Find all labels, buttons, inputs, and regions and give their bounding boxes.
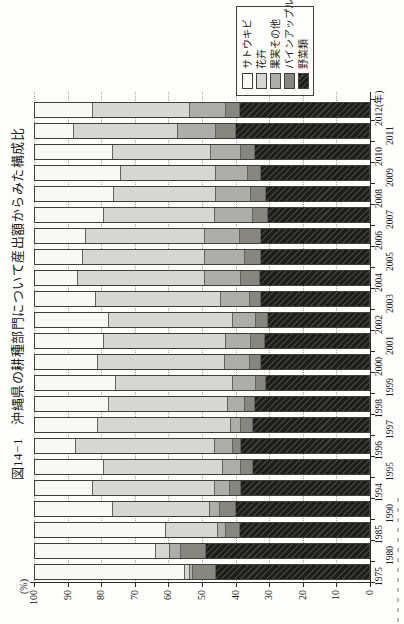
- bar-segment-野菜類: [260, 292, 369, 306]
- bar-1998: [34, 396, 370, 412]
- y-axis-tick: [168, 583, 169, 587]
- y-axis-tick-label: 100: [29, 590, 39, 616]
- bar-2005: [34, 249, 370, 265]
- bar-segment-サトウキビ: [35, 208, 103, 222]
- bar-segment-サトウキビ: [35, 439, 75, 453]
- year-label-2001: 2001: [385, 336, 395, 355]
- bar-segment-パインアップル: [240, 271, 258, 285]
- bar-segment-サトウキビ: [35, 292, 95, 306]
- bar-segment-果実その他: [217, 523, 225, 537]
- year-label-1998: 1998: [374, 399, 384, 418]
- y-axis-tick-label: 40: [231, 590, 241, 616]
- bar-2001: [34, 333, 370, 349]
- bar-1997: [34, 417, 370, 433]
- bar-2011: [34, 123, 370, 139]
- bar-2010: [34, 144, 370, 160]
- x-axis-tick: [371, 225, 375, 226]
- bar-segment-パインアップル: [240, 460, 252, 474]
- bar-segment-パインアップル: [240, 418, 252, 432]
- bar-segment-花卉: [97, 355, 224, 369]
- bar-2012: [34, 102, 370, 118]
- bar-segment-サトウキビ: [35, 145, 112, 159]
- x-axis-tick: [371, 519, 375, 520]
- scanned-page: 図14−1 沖縄県の耕種部門について産出額からみた構成比 (%) 1009080…: [0, 0, 404, 624]
- legend-swatch-pineapple: [284, 73, 295, 89]
- bar-segment-花卉: [103, 208, 213, 222]
- bar-segment-サトウキビ: [35, 187, 113, 201]
- x-axis-line: [370, 92, 371, 583]
- year-label-2011: 2011: [385, 126, 395, 145]
- bar-segment-野菜類: [252, 460, 369, 474]
- bar-segment-花卉: [103, 334, 225, 348]
- bar-segment-サトウキビ: [35, 376, 115, 390]
- bar-segment-野菜類: [240, 439, 369, 453]
- bar-2009: [34, 165, 370, 181]
- legend-label: パインアップル: [284, 0, 295, 69]
- y-axis-line: [30, 582, 371, 583]
- bar-segment-花卉: [75, 439, 214, 453]
- legend-swatch-other-fruits: [270, 73, 281, 89]
- bar-segment-サトウキビ: [35, 334, 103, 348]
- bar-segment-サトウキビ: [35, 166, 120, 180]
- y-axis-tick-label: 30: [264, 590, 274, 616]
- bar-segment-パインアップル: [255, 376, 265, 390]
- bar-2006: [34, 228, 370, 244]
- year-label-2009: 2009: [385, 168, 395, 187]
- x-axis-tick: [371, 477, 375, 478]
- bar-segment-野菜類: [260, 166, 369, 180]
- bar-segment-サトウキビ: [35, 418, 97, 432]
- bar-segment-果実その他: [169, 544, 181, 558]
- bar-segment-果実その他: [214, 208, 252, 222]
- year-label-1997: 1997: [385, 420, 395, 439]
- bar-segment-果実その他: [210, 145, 240, 159]
- bar-2000: [34, 354, 370, 370]
- year-label-2002: 2002: [374, 315, 384, 334]
- bar-1975: [34, 564, 370, 580]
- year-label-2005: 2005: [385, 252, 395, 271]
- legend-item-sugarcane: サトウキビ: [242, 11, 253, 89]
- bar-segment-果実その他: [214, 481, 229, 495]
- bar-segment-パインアップル: [239, 229, 261, 243]
- bar-segment-野菜類: [254, 145, 369, 159]
- bar-segment-野菜類: [239, 103, 369, 117]
- bar-segment-花卉: [108, 397, 227, 411]
- bar-segment-野菜類: [264, 334, 369, 348]
- y-axis-tick-label: 70: [130, 590, 140, 616]
- year-label-2010: 2010: [374, 147, 384, 166]
- y-axis-tick: [269, 583, 270, 587]
- year-label-1975: 1975: [374, 567, 384, 586]
- x-axis-tick: [371, 309, 375, 310]
- bar-segment-花卉: [113, 187, 215, 201]
- bar-segment-花卉: [112, 145, 211, 159]
- bar-segment-野菜類: [260, 229, 369, 243]
- bar-segment-パインアップル: [219, 502, 236, 516]
- y-axis-tick: [101, 583, 102, 587]
- bar-2008: [34, 186, 370, 202]
- bar-segment-野菜類: [265, 187, 369, 201]
- legend-swatch-sugarcane: [242, 73, 253, 89]
- bar-segment-果実その他: [224, 355, 249, 369]
- legend-item-other-fruits: 果実その他: [270, 11, 281, 89]
- bar-segment-パインアップル: [240, 145, 253, 159]
- year-label-2007: 2007: [385, 210, 395, 229]
- year-label-1980: 1980: [385, 546, 395, 565]
- y-axis-tick: [202, 583, 203, 587]
- year-label-2008: 2008: [374, 189, 384, 208]
- year-label-1995: 1995: [385, 462, 395, 481]
- bar-segment-果実その他: [189, 103, 226, 117]
- bar-segment-花卉: [155, 544, 168, 558]
- bar-segment-果実その他: [220, 292, 248, 306]
- x-axis-tick: [371, 183, 375, 184]
- bar-segment-パインアップル: [252, 208, 267, 222]
- bar-segment-サトウキビ: [35, 544, 155, 558]
- y-axis-tick-label: 80: [96, 590, 106, 616]
- y-axis-tick: [370, 583, 371, 587]
- bar-2004: [34, 270, 370, 286]
- bar-segment-パインアップル: [249, 292, 261, 306]
- x-axis-tick: [371, 561, 375, 562]
- legend-item-pineapple: パインアップル: [284, 11, 295, 89]
- bar-segment-野菜類: [254, 397, 369, 411]
- legend-swatch-flowers: [256, 73, 267, 89]
- x-axis-tick: [371, 267, 375, 268]
- bar-segment-果実その他: [230, 418, 240, 432]
